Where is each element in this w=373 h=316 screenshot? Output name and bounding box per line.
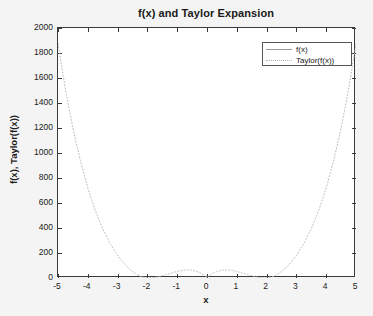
legend-swatch-dotted-icon [266, 57, 292, 65]
x-tick-label: 3 [280, 281, 310, 291]
legend-swatch-solid-icon [266, 46, 292, 54]
y-axis-tick-labels: 2000 1800 1600 1400 1200 1000 800 600 40… [0, 0, 53, 316]
x-tick-label: 2 [251, 281, 281, 291]
y-tick-label: 200 [3, 248, 53, 257]
y-tick-label: 1200 [3, 123, 53, 132]
legend-item-taylor[interactable]: Taylor(f(x)) [266, 56, 348, 66]
y-tick-label: 1800 [3, 48, 53, 57]
x-tick-label: 0 [191, 281, 221, 291]
figure-canvas: f(x) and Taylor Expansion f(x), Taylor(f… [0, 0, 373, 316]
x-tick-label: -1 [161, 281, 191, 291]
series-line-taylor [58, 44, 356, 278]
legend-item-fx[interactable]: f(x) [266, 45, 348, 55]
y-tick-label: 2000 [3, 23, 53, 32]
x-tick-label: 4 [310, 281, 340, 291]
y-tick-label: 1000 [3, 148, 53, 157]
x-tick-label: 1 [221, 281, 251, 291]
y-tick-label: 600 [3, 198, 53, 207]
x-tick-label: -5 [42, 281, 72, 291]
y-tick-label: 800 [3, 173, 53, 182]
x-tick-label: 5 [340, 281, 370, 291]
x-axis-tick-labels: -5 -4 -3 -2 -1 0 1 2 3 4 5 [0, 281, 373, 295]
x-tick-label: -4 [72, 281, 102, 291]
y-tick-label: 400 [3, 223, 53, 232]
legend-label: f(x) [296, 45, 308, 55]
x-tick-label: -2 [131, 281, 161, 291]
page-title: f(x) and Taylor Expansion [57, 7, 355, 19]
x-axis-label: x [57, 294, 355, 305]
x-tick-label: -3 [102, 281, 132, 291]
y-tick-label: 1600 [3, 73, 53, 82]
legend[interactable]: f(x) Taylor(f(x)) [262, 42, 352, 66]
legend-label: Taylor(f(x)) [296, 56, 334, 66]
y-tick-label: 1400 [3, 98, 53, 107]
